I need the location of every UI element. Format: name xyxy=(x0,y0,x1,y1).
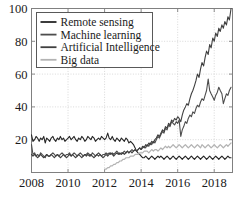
x-axis-tick-labels: 200820102012201420162018 xyxy=(19,176,227,190)
line-chart: 20406080100 200820102012201420162018 Rem… xyxy=(0,0,242,206)
legend-label: Big data xyxy=(61,54,100,67)
x-tick-label: 2008 xyxy=(19,176,44,190)
y-tick-label: 20 xyxy=(15,133,28,147)
legend-label: Remote sensing xyxy=(61,16,134,29)
x-tick-label: 2012 xyxy=(92,176,117,190)
x-tick-label: 2014 xyxy=(129,176,155,190)
chart-figure: 20406080100 200820102012201420162018 Rem… xyxy=(0,0,242,206)
legend-label: Artificial Intelligence xyxy=(61,41,160,54)
legend-label: Machine learning xyxy=(61,29,142,42)
legend: Remote sensingMachine learningArtificial… xyxy=(37,13,160,68)
x-tick-label: 2016 xyxy=(165,176,190,190)
y-tick-label: 60 xyxy=(15,68,28,82)
y-tick-label: 40 xyxy=(15,100,28,114)
x-tick-label: 2018 xyxy=(202,176,227,190)
x-tick-label: 2010 xyxy=(56,176,81,190)
y-tick-label: 80 xyxy=(15,35,28,49)
y-tick-label: 100 xyxy=(9,2,28,16)
y-axis-tick-labels: 20406080100 xyxy=(9,2,28,147)
